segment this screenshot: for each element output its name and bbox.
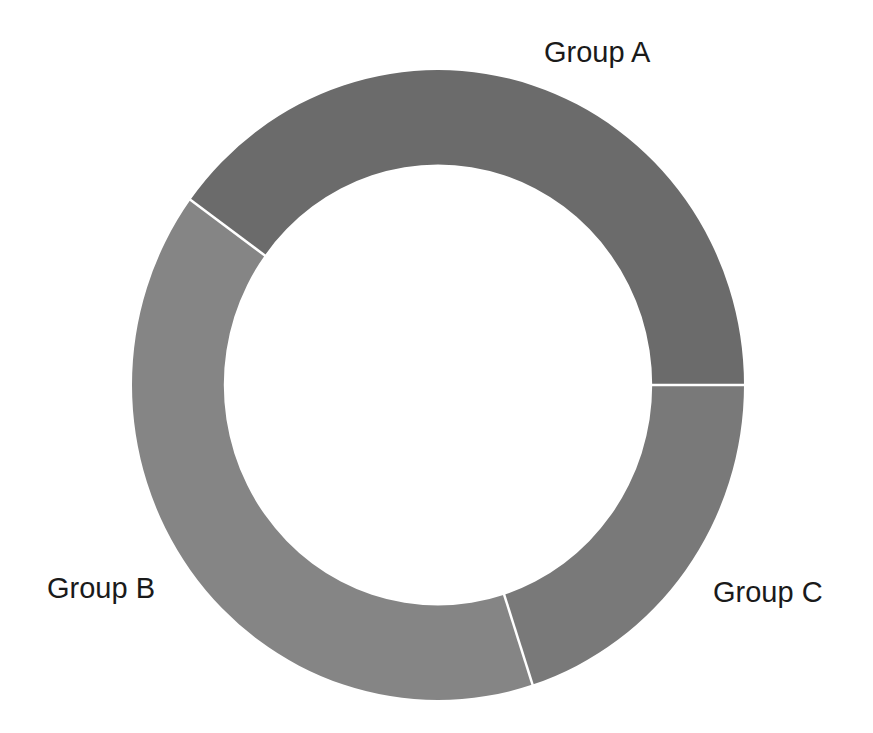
donut-chart: Group A Group B Group C <box>0 0 873 733</box>
label-group-c: Group C <box>713 578 823 607</box>
slice-group-c <box>504 385 744 685</box>
slice-group-a <box>190 70 744 385</box>
donut-chart-plot <box>0 0 873 733</box>
label-group-a: Group A <box>544 38 650 67</box>
slice-group-b <box>132 200 533 700</box>
label-group-b: Group B <box>47 574 155 603</box>
